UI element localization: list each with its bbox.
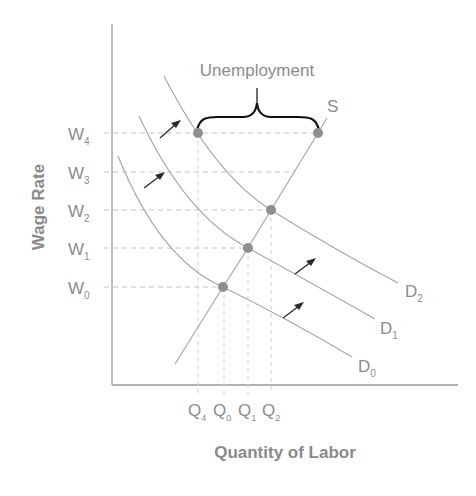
- point-q4-w4: [193, 128, 203, 138]
- shift-arrow-1: [160, 120, 181, 138]
- shift-arrow-4: [283, 302, 304, 318]
- x-tick-q0: Q0: [213, 401, 231, 423]
- y-tick-w1: W1: [68, 240, 90, 262]
- y-axis-title: Wage Rate: [29, 164, 48, 250]
- demand-curve-d2: [164, 76, 398, 283]
- y-tick-w4: W4: [68, 125, 90, 147]
- x-tick-q4: Q4: [188, 401, 206, 423]
- labor-market-chart: W4 W3 W2 W1 W0 Q4 Q0 Q1 Q2 S D2 D1 D0 Un…: [0, 0, 476, 496]
- point-e1: [243, 243, 253, 253]
- point-supply-w4: [313, 128, 323, 138]
- x-tick-q1: Q1: [238, 401, 256, 423]
- demand-curve-d0: [118, 156, 352, 357]
- y-tick-labels: W4 W3 W2 W1 W0: [68, 125, 90, 301]
- shift-arrow-3: [295, 258, 316, 274]
- d0-label: D0: [358, 357, 376, 379]
- wage-guides: [104, 133, 318, 287]
- unemployment-brace: [197, 103, 319, 130]
- d2-label: D2: [405, 282, 423, 304]
- point-e2: [266, 205, 276, 215]
- demand-curve-d1: [139, 116, 375, 319]
- d1-label: D1: [380, 319, 398, 341]
- supply-label: S: [327, 97, 338, 116]
- y-tick-w2: W2: [68, 202, 90, 224]
- unemployment-label: Unemployment: [200, 61, 315, 80]
- y-tick-w0: W0: [68, 279, 90, 301]
- y-tick-w3: W3: [68, 164, 90, 186]
- point-e0: [218, 282, 228, 292]
- shift-arrow-2: [144, 172, 165, 188]
- x-tick-q2: Q2: [262, 401, 280, 423]
- x-axis-title: Quantity of Labor: [214, 443, 356, 462]
- x-tick-labels: Q4 Q0 Q1 Q2: [188, 401, 280, 423]
